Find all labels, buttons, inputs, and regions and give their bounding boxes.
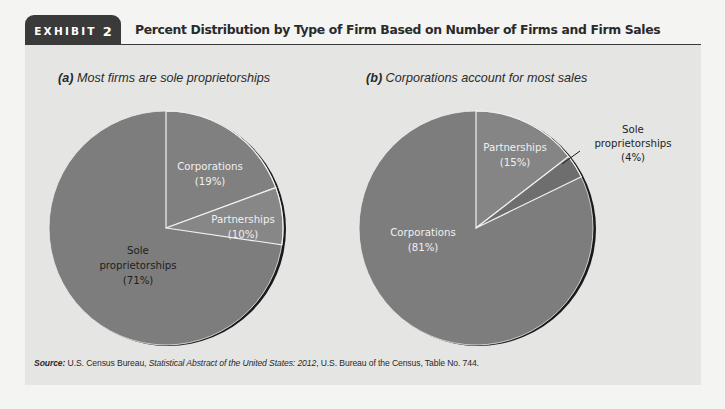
pie-b-corp-pct: (81%) bbox=[408, 242, 439, 253]
pie-b-part-pct: (15%) bbox=[500, 157, 531, 168]
pie-b-sole-label-1: Sole bbox=[622, 124, 644, 135]
pie-a: Corporations (19%) Partnerships (10%) So… bbox=[49, 111, 286, 346]
source-publication: Statistical Abstract of the United State… bbox=[149, 358, 316, 368]
chart-panel: (a) Most firms are sole proprietorships … bbox=[25, 45, 701, 385]
pie-b-part-label: Partnerships bbox=[483, 142, 546, 153]
source-text-2: , U.S. Bureau of the Census, Table No. 7… bbox=[316, 358, 479, 368]
source-text-1: U.S. Census Bureau, bbox=[65, 358, 148, 368]
pie-charts: Corporations (19%) Partnerships (10%) So… bbox=[25, 45, 701, 385]
source-label: Source: bbox=[34, 358, 65, 368]
pie-a-part-label: Partnerships bbox=[211, 214, 274, 225]
source-note: Source: U.S. Census Bureau, Statistical … bbox=[34, 358, 479, 368]
pie-a-corp-pct: (19%) bbox=[195, 176, 226, 187]
pie-b-sole-pct: (4%) bbox=[621, 152, 645, 163]
pie-a-sole-pct: (71%) bbox=[123, 275, 154, 286]
pie-a-corp-label: Corporations bbox=[177, 161, 243, 172]
pie-a-sole-label-2: proprietorships bbox=[99, 260, 176, 271]
exhibit-tab: EXHIBIT 2 bbox=[25, 15, 121, 45]
exhibit-word: EXHIBIT bbox=[34, 25, 96, 37]
pie-b: Partnerships (15%) Corporations (81%) So… bbox=[359, 111, 672, 346]
pie-a-part-pct: (10%) bbox=[228, 229, 259, 240]
pie-b-corp-label: Corporations bbox=[390, 227, 456, 238]
pie-b-sole-label-2: proprietorships bbox=[594, 138, 671, 149]
exhibit-figure: EXHIBIT 2 Percent Distribution by Type o… bbox=[25, 15, 701, 385]
exhibit-title: Percent Distribution by Type of Firm Bas… bbox=[135, 22, 660, 37]
exhibit-number: 2 bbox=[103, 24, 112, 39]
pie-a-sole-label-1: Sole bbox=[127, 245, 149, 256]
